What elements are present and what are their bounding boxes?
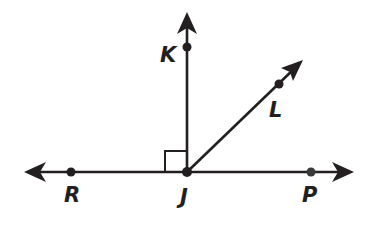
- point-p: [307, 168, 316, 177]
- point-k: [183, 43, 192, 52]
- label-k: K: [160, 45, 176, 66]
- label-j: J: [180, 187, 188, 208]
- label-p: P: [302, 185, 317, 206]
- label-r: R: [64, 185, 80, 206]
- label-l: L: [269, 100, 282, 121]
- point-r: [67, 168, 76, 177]
- point-l: [275, 80, 284, 89]
- point-j: [182, 167, 192, 177]
